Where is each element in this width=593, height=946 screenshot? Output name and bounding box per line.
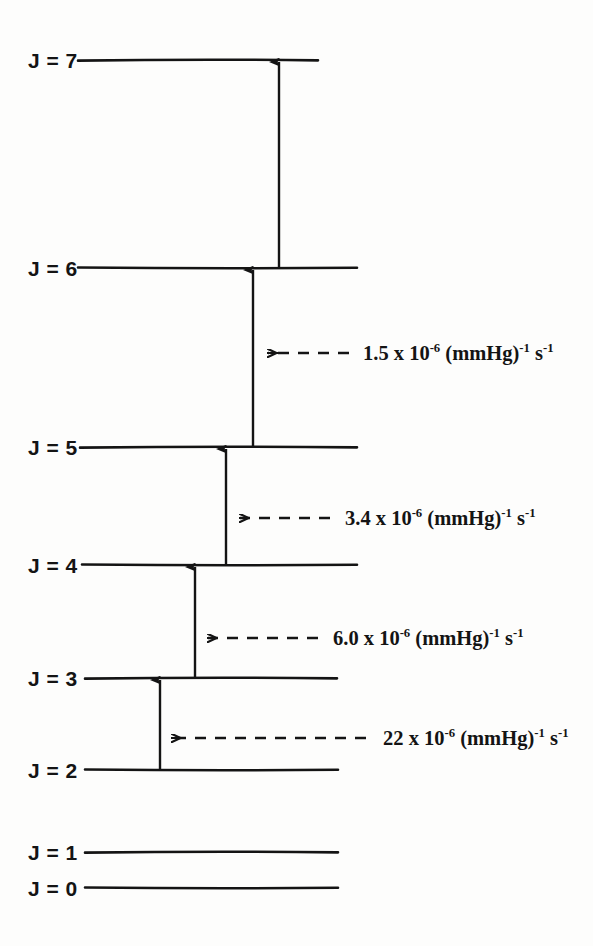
energy-level-line-j3	[85, 678, 337, 679]
rate-exponent: -6	[412, 506, 423, 520]
energy-level-line-j6	[78, 267, 357, 268]
rate-exponent: -6	[430, 341, 441, 355]
rate-units-second-exponent: -1	[513, 626, 524, 640]
diagram-svg	[0, 0, 593, 946]
rate-units-pressure: (mmHg)	[455, 727, 534, 749]
rate-units-second-exponent: -1	[558, 726, 569, 740]
rate-units-second: s	[512, 507, 525, 529]
transition-arrows-group	[160, 62, 279, 770]
rate-units-second-exponent: -1	[543, 341, 554, 355]
level-label-j6: J = 6	[28, 258, 78, 279]
rate-2-to-3-text: 22 x 10-6 (mmHg)-1 s-1	[383, 728, 569, 749]
energy-level-line-j0	[85, 887, 338, 888]
rate-units-pressure: (mmHg)	[440, 342, 519, 364]
level-label-j3: J = 3	[28, 668, 78, 689]
level-label-j5: J = 5	[28, 437, 78, 458]
rate-units-second: s	[500, 627, 513, 649]
rate-units-second-exponent: -1	[525, 506, 536, 520]
rate-5-to-6-text: 1.5 x 10-6 (mmHg)-1 s-1	[363, 343, 554, 364]
multiplication-sign: x 10	[359, 627, 400, 649]
level-label-j7: J = 7	[28, 50, 78, 71]
rate-coefficient: 3.4	[345, 507, 371, 529]
rate-arrows-group	[172, 353, 366, 738]
rate-units-pressure: (mmHg)	[422, 507, 501, 529]
energy-level-line-j5	[80, 447, 357, 448]
level-label-j0: J = 0	[28, 878, 78, 899]
energy-level-line-j4	[82, 564, 357, 565]
rate-units-pressure-exponent: -1	[519, 341, 530, 355]
rate-units-pressure-exponent: -1	[534, 726, 545, 740]
rate-units-second: s	[530, 342, 543, 364]
energy-level-line-j1	[85, 852, 338, 853]
multiplication-sign: x 10	[404, 727, 445, 749]
rate-coefficient: 6.0	[333, 627, 359, 649]
multiplication-sign: x 10	[389, 342, 430, 364]
rate-exponent: -6	[400, 626, 411, 640]
energy-level-line-j7	[78, 60, 318, 61]
rate-units-pressure-exponent: -1	[501, 506, 512, 520]
energy-level-diagram: J = 7J = 6J = 5J = 4J = 3J = 2J = 1J = 0…	[0, 0, 593, 946]
rate-units-pressure-exponent: -1	[489, 626, 500, 640]
multiplication-sign: x 10	[371, 507, 412, 529]
energy-level-line-j2	[85, 769, 338, 770]
rate-coefficient: 1.5	[363, 342, 389, 364]
level-label-j1: J = 1	[28, 842, 78, 863]
level-label-j4: J = 4	[28, 555, 78, 576]
rate-units-pressure: (mmHg)	[410, 627, 489, 649]
rate-units-second: s	[545, 727, 558, 749]
rate-3-to-4-text: 6.0 x 10-6 (mmHg)-1 s-1	[333, 628, 524, 649]
level-label-j2: J = 2	[28, 760, 78, 781]
rate-exponent: -6	[445, 726, 456, 740]
level-lines-group	[78, 60, 357, 889]
rate-4-to-5-text: 3.4 x 10-6 (mmHg)-1 s-1	[345, 508, 536, 529]
rate-coefficient: 22	[383, 727, 404, 749]
